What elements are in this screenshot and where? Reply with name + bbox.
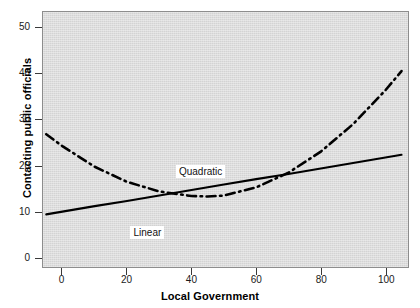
series-label-linear: Linear: [130, 226, 164, 239]
x-tick-label: 40: [171, 275, 211, 285]
plot-area: Quadratic Linear: [42, 11, 409, 268]
chart-figure: Quadratic Linear 01020304050 02040608010…: [0, 0, 420, 308]
x-tick-label: 60: [236, 275, 276, 285]
y-tick-label: 50: [8, 22, 30, 32]
y-axis-title: Contacting public officials: [21, 38, 33, 218]
x-tick-label: 80: [301, 275, 341, 285]
y-tick-mark: [35, 166, 42, 167]
y-tick-mark: [35, 119, 42, 120]
y-tick-mark: [35, 258, 42, 259]
y-tick-mark: [35, 27, 42, 28]
y-tick-mark: [35, 73, 42, 74]
chart-curves: [43, 12, 408, 267]
y-tick-label: 0: [8, 253, 30, 263]
x-tick-label: 20: [106, 275, 146, 285]
y-tick-mark: [35, 212, 42, 213]
x-tick-label: 0: [41, 275, 81, 285]
series-quadratic-line: [46, 71, 401, 196]
x-axis-title: Local Government: [0, 290, 420, 302]
x-tick-label: 100: [366, 275, 406, 285]
series-label-quadratic: Quadratic: [176, 165, 225, 178]
